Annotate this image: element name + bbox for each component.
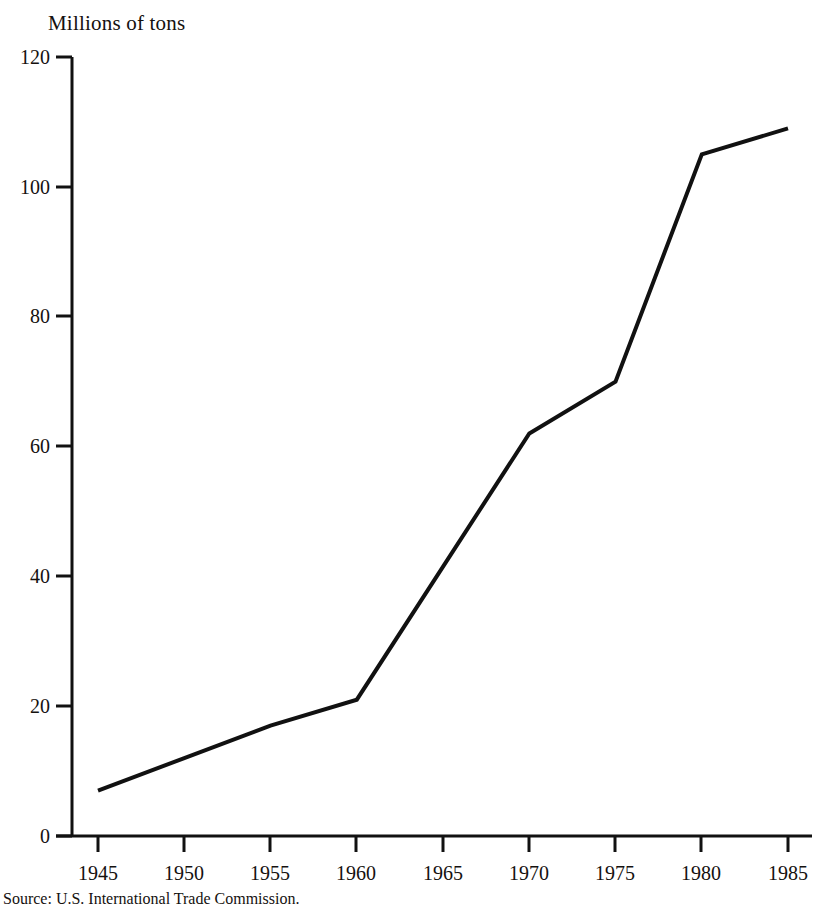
- x-tick-label-1965: 1965: [423, 862, 463, 885]
- x-tick-label-1950: 1950: [164, 862, 204, 885]
- chart-plot-area: [0, 0, 827, 917]
- chart-figure: Millions of tons: [0, 0, 827, 917]
- source-note: Source: U.S. International Trade Commiss…: [3, 890, 299, 908]
- x-tick-label-1985: 1985: [768, 862, 808, 885]
- x-tick-label-1955: 1955: [250, 862, 290, 885]
- y-tick-label-20: 20: [12, 695, 50, 718]
- y-tick-label-40: 40: [12, 565, 50, 588]
- x-axis-ticks: [98, 836, 788, 852]
- x-tick-label-1975: 1975: [595, 862, 635, 885]
- x-tick-label-1970: 1970: [509, 862, 549, 885]
- x-tick-label-1945: 1945: [78, 862, 118, 885]
- y-axis-ticks: [56, 57, 72, 836]
- chart-axes: [56, 57, 812, 852]
- y-tick-label-100: 100: [12, 176, 50, 199]
- x-tick-label-1980: 1980: [681, 862, 721, 885]
- data-series-line: [98, 128, 788, 790]
- y-tick-label-80: 80: [12, 305, 50, 328]
- y-tick-label-60: 60: [12, 435, 50, 458]
- x-tick-label-1960: 1960: [336, 862, 376, 885]
- y-tick-label-0: 0: [12, 825, 50, 848]
- y-tick-label-120: 120: [12, 46, 50, 69]
